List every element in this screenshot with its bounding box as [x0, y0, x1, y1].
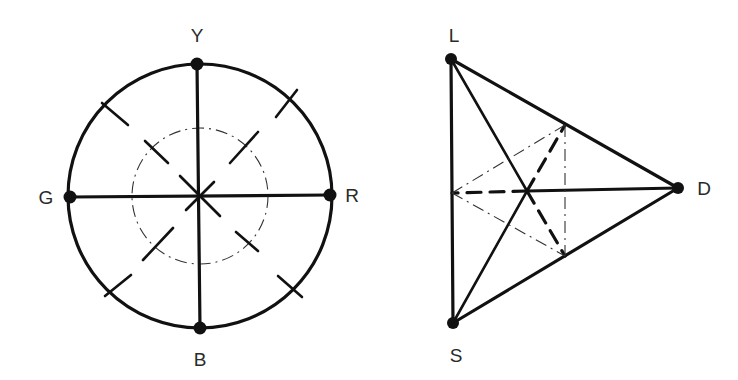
- node-g: [64, 191, 77, 204]
- label-l: L: [449, 25, 460, 46]
- color-circle-diagram: Y R B G: [39, 25, 359, 370]
- inner-tick-ne: [230, 132, 258, 163]
- spoke-d-centroid: [527, 188, 678, 191]
- outer-tick-sw: [105, 275, 131, 296]
- label-d: D: [697, 178, 711, 199]
- dashdot-mid-ld: [452, 125, 565, 193]
- inner-tick-se: [236, 232, 258, 251]
- label-b: B: [194, 349, 207, 370]
- node-l: [445, 53, 457, 65]
- dashed-centroid-ld: [527, 125, 565, 191]
- triangle-diagram: L D S: [445, 25, 711, 366]
- label-g: G: [39, 187, 54, 208]
- label-y: Y: [191, 25, 204, 46]
- node-b: [194, 322, 207, 335]
- node-d: [672, 182, 684, 194]
- inner-tick-sw: [143, 228, 173, 260]
- node-s: [447, 317, 459, 329]
- dashed-centroid-sd: [527, 191, 565, 256]
- node-r: [324, 189, 337, 202]
- dashed-centroid-ls-mid: [452, 191, 527, 193]
- node-y: [191, 58, 204, 71]
- label-r: R: [345, 185, 359, 206]
- edge-l-s: [451, 59, 453, 323]
- label-s: S: [450, 345, 463, 366]
- spoke-s-centroid: [453, 191, 527, 323]
- outer-tick-nw: [102, 103, 128, 125]
- diagram-canvas: Y R B G L D S: [0, 0, 738, 380]
